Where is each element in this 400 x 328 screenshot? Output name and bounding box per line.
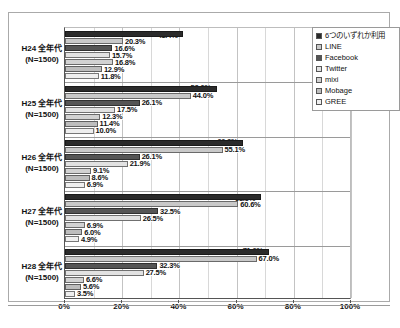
legend-item-mixi[interactable]: mixi [316,75,397,86]
category-label: H24 全年代(N=1500) [19,43,65,65]
category-label-n: (N=1500) [19,109,65,120]
bar-row [65,208,350,214]
bar-Twitter[interactable] [65,52,110,58]
category-label-n: (N=1500) [19,163,65,174]
legend-swatch-icon [316,33,322,39]
bar-Twitter[interactable] [65,270,144,276]
category-label-period: H28 全年代 [19,261,65,272]
legend-swatch-icon [316,77,322,83]
x-tick-label: 20% [113,302,129,311]
bar-mixi[interactable] [65,222,85,228]
chart-screenshot: 41.4%20.3%16.6%15.7%16.8%12.9%11.8%53.0%… [0,0,400,328]
bar-LINE[interactable] [65,93,191,99]
bar-6つのいずれか利用[interactable] [65,194,261,200]
legend-item-Mobage[interactable]: Mobage [316,86,397,97]
legend-item-LINE[interactable]: LINE [316,42,397,53]
bar-row [65,140,350,146]
bar-row [65,277,350,283]
bar-mixi[interactable] [65,168,91,174]
category-label-n: (N=1500) [19,272,65,283]
legend-label: mixi [325,75,338,85]
bar-row [65,201,350,207]
bar-GREE[interactable] [65,73,99,79]
legend-swatch-icon [316,66,322,72]
bar-6つのいずれか利用[interactable] [65,249,269,255]
category-label: H28 全年代(N=1500) [19,261,65,283]
bar-row [65,249,350,255]
footer-divider [8,305,390,306]
bar-row [65,154,350,160]
category-label-n: (N=1500) [19,217,65,228]
bar-row [65,229,350,235]
bar-group: 53.0%44.0%26.1%17.5%12.3%11.4%10.0% [65,82,350,136]
x-tick-label: 0% [58,302,70,311]
bar-Facebook[interactable] [65,263,157,269]
bar-row [65,100,350,106]
bar-row [65,182,350,188]
bar-row [65,175,350,181]
bar-Mobage[interactable] [65,121,98,127]
bar-GREE[interactable] [65,236,79,242]
group-separator [65,191,350,192]
bar-row [65,147,350,153]
bar-row [65,45,350,51]
bar-row [65,128,350,134]
category-label: H27 全年代(N=1500) [19,206,65,228]
legend-label: 6つのいずれか利用 [325,31,385,41]
legend-label: GREE [325,97,346,107]
bar-mixi[interactable] [65,277,84,283]
plot-area: 41.4%20.3%16.6%15.7%16.8%12.9%11.8%53.0%… [64,27,351,299]
bar-row [65,215,350,221]
legend-label: Mobage [325,86,352,96]
category-label: H26 全年代(N=1500) [19,152,65,174]
legend-swatch-icon [316,99,322,105]
bar-GREE[interactable] [65,182,85,188]
bar-row [65,52,350,58]
bar-GREE[interactable] [65,128,94,134]
bar-Mobage[interactable] [65,66,102,72]
category-label-period: H27 全年代 [19,206,65,217]
bar-row [65,222,350,228]
footer-caption [170,310,390,324]
bar-6つのいずれか利用[interactable] [65,140,243,146]
bar-row [65,236,350,242]
bar-row [65,256,350,262]
legend-item-6つのいずれか利用[interactable]: 6つのいずれか利用 [316,31,397,42]
legend-item-Twitter[interactable]: Twitter [316,64,397,75]
chart-frame: 41.4%20.3%16.6%15.7%16.8%12.9%11.8%53.0%… [8,12,390,302]
category-label: H25 全年代(N=1500) [19,98,65,120]
bar-row [65,31,350,37]
legend-item-Facebook[interactable]: Facebook [316,53,397,64]
bar-group: 68.5%60.6%32.5%26.5%6.9%6.0%4.9% [65,191,350,245]
group-separator [65,246,350,247]
category-label-n: (N=1500) [19,54,65,65]
category-label-period: H26 全年代 [19,152,65,163]
bar-Facebook[interactable] [65,45,112,51]
chart-legend: 6つのいずれか利用LINEFacebookTwittermixiMobageGR… [312,27,400,111]
bar-Mobage[interactable] [65,229,82,235]
bar-row [65,270,350,276]
bar-group: 62.3%55.1%26.1%21.9%9.1%8.6%6.9% [65,137,350,191]
bar-row [65,284,350,290]
bar-mixi[interactable] [65,114,100,120]
category-label-period: H25 全年代 [19,98,65,109]
bar-LINE[interactable] [65,201,238,207]
bar-GREE[interactable] [65,291,75,297]
bar-row [65,291,350,297]
group-separator [65,137,350,138]
legend-label: LINE [325,42,342,52]
legend-swatch-icon [316,88,322,94]
bar-row [65,93,350,99]
legend-item-GREE[interactable]: GREE [316,97,397,108]
legend-label: Facebook [325,53,358,63]
bar-row [65,194,350,200]
legend-swatch-icon [316,44,322,50]
bar-row [65,38,350,44]
category-label-period: H24 全年代 [19,43,65,54]
legend-label: Twitter [325,64,347,74]
legend-swatch-icon [316,55,322,61]
bar-Facebook[interactable] [65,154,140,160]
bar-row [65,263,350,269]
bar-group: 41.4%20.3%16.6%15.7%16.8%12.9%11.8% [65,28,350,82]
bar-row [65,73,350,79]
